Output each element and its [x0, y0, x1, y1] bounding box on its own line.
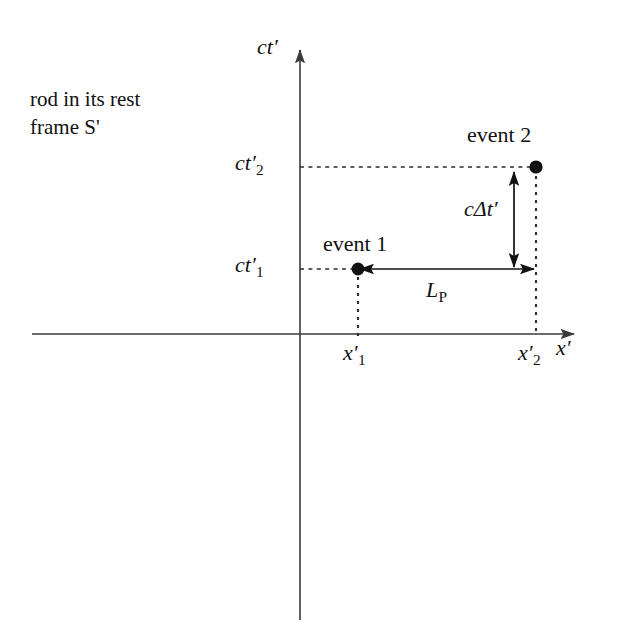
tick-label-ct2: ct′2: [235, 152, 264, 177]
tick-label-x2-base: x: [518, 340, 528, 365]
tick-label-x2: x′2: [518, 342, 541, 367]
tick-label-x1: x′1: [343, 342, 366, 367]
x-axis-label-prime: ′: [566, 335, 571, 360]
tick-label-ct2-base: ct: [235, 150, 251, 175]
tick-label-x1-base: x: [343, 340, 353, 365]
time-interval-c: c: [464, 196, 474, 221]
ct-axis-label-prime: ′: [273, 34, 278, 59]
tick-label-x1-prime: ′: [353, 340, 358, 365]
time-interval-prime: ′: [493, 196, 498, 221]
tick-label-ct1-base: ct: [235, 252, 251, 277]
event-2-label: event 2: [467, 124, 531, 146]
event-1-point: [352, 263, 365, 276]
x-axis-label-base: x: [556, 335, 566, 360]
tick-label-ct2-subscript: 2: [256, 161, 264, 178]
caption-line-1: rod in its rest: [30, 86, 140, 114]
ct-axis-label: ct′: [257, 36, 278, 58]
tick-label-x2-prime: ′: [528, 340, 533, 365]
x-axis-label: x′: [556, 337, 571, 359]
time-interval-delta: Δ: [474, 196, 487, 221]
event-1-label: event 1: [323, 233, 387, 255]
length-proper-label: LP: [426, 279, 447, 304]
tick-label-ct1: ct′1: [235, 254, 264, 279]
time-interval-label: cΔt′: [464, 198, 498, 220]
length-proper-subscript: P: [438, 288, 447, 305]
tick-label-ct1-prime: ′: [251, 252, 256, 277]
tick-label-x1-subscript: 1: [358, 351, 366, 368]
tick-label-ct1-subscript: 1: [256, 263, 264, 280]
spacetime-diagram-figure: rod in its rest frame S' ct′ x′ ct′2 ct′…: [0, 0, 618, 642]
caption-block: rod in its rest frame S': [30, 86, 140, 141]
event-2-point: [529, 160, 542, 173]
length-proper-base: L: [426, 277, 438, 302]
tick-label-ct2-prime: ′: [251, 150, 256, 175]
caption-line-2: frame S': [30, 114, 140, 142]
tick-label-x2-subscript: 2: [533, 351, 541, 368]
ct-axis-label-base: ct: [257, 34, 273, 59]
